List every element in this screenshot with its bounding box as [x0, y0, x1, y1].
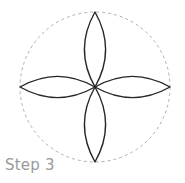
- left-petal: [20, 77, 95, 98]
- bottom-petal: [85, 87, 106, 162]
- step-caption: Step 3: [5, 155, 55, 175]
- top-petal: [85, 12, 106, 87]
- right-petal: [95, 77, 170, 98]
- figure-canvas: Step 3: [0, 0, 185, 183]
